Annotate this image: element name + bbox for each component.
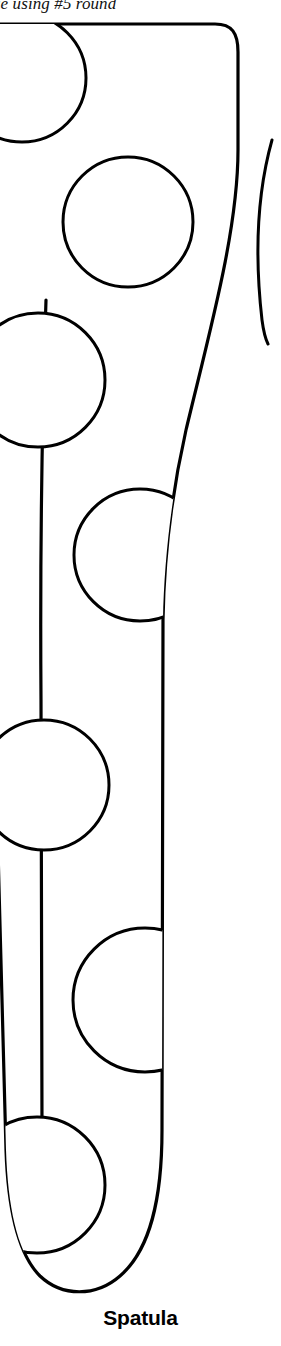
- illustration-page: ue using #5 round: [0, 0, 281, 1346]
- adjacent-figure-edge: [258, 140, 272, 344]
- hole-4: [74, 489, 206, 621]
- spatula-svg: [0, 0, 281, 1346]
- spatula-drawing: [0, 0, 281, 1346]
- hole-6: [73, 928, 217, 1072]
- figure-label: Spatula: [0, 1306, 281, 1330]
- hole-2: [63, 157, 193, 287]
